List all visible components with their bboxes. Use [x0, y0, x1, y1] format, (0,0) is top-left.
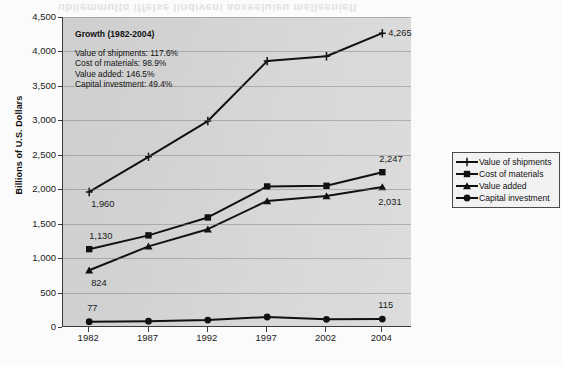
legend-item-label: Cost of materials: [479, 168, 543, 180]
series-circle: [86, 314, 386, 325]
series-triangle: [85, 183, 386, 273]
legend-item-label: Value added: [479, 180, 527, 192]
legend-item[interactable]: Cost of materials: [455, 168, 556, 180]
data-label-materials-2004: 2,247: [379, 154, 402, 164]
series-line: [89, 317, 382, 322]
y-axis-tick-mark: [58, 258, 62, 259]
data-label-value-added-2004: 2,031: [378, 197, 401, 207]
gridline: [63, 189, 411, 190]
x-axis-tick-mark: [148, 327, 149, 332]
series-square: [86, 169, 386, 252]
gridline: [63, 17, 411, 18]
data-point-cross-marker: [379, 29, 386, 37]
y-axis-tick-mark: [58, 155, 62, 156]
x-axis-tick-mark: [266, 327, 267, 332]
x-axis-tick-label: 2004: [351, 332, 411, 343]
y-axis-tick-mark: [58, 86, 62, 87]
data-point-circle-marker: [145, 318, 152, 325]
data-point-circle-marker: [204, 317, 211, 324]
data-label-value-added-1982: 824: [91, 278, 107, 288]
y-axis-tick-label: 500: [0, 287, 56, 298]
y-axis-tick-mark: [58, 224, 62, 225]
data-point-square-marker: [323, 183, 329, 189]
y-axis-tick-mark: [58, 293, 62, 294]
data-point-cross-marker: [323, 52, 330, 60]
legend-item[interactable]: Capital investment: [455, 192, 556, 204]
data-point-square-marker: [145, 232, 151, 238]
data-point-circle-marker: [323, 316, 330, 323]
data-label-shipments-2004: 4,265: [388, 28, 411, 38]
data-label-materials-1982: 1,130: [89, 231, 112, 241]
x-axis-tick-label: 1987: [118, 332, 178, 343]
triangle-marker: [455, 180, 479, 192]
y-axis-tick-label: 2,500: [0, 149, 56, 160]
data-label-capital-1982: 77: [87, 303, 97, 313]
legend-item[interactable]: Value of shipments: [455, 156, 556, 168]
x-axis-tick-label: 1992: [177, 332, 237, 343]
data-label-shipments-1982: 1,960: [91, 199, 114, 209]
data-point-circle-marker: [264, 314, 271, 321]
y-axis-tick-label: 3,000: [0, 114, 56, 125]
y-axis-tick-label: 1,500: [0, 218, 56, 229]
annotation-line-shipments: Value of shipments: 117.6%: [75, 48, 217, 59]
x-axis-tick-mark: [207, 327, 208, 332]
legend-item[interactable]: Value added: [455, 180, 556, 192]
cross-marker: [455, 156, 479, 168]
growth-annotation: Growth (1982-2004) Value of shipments: 1…: [75, 29, 217, 90]
circle-marker: [455, 192, 479, 204]
x-axis-tick-mark: [381, 327, 382, 332]
annotation-line-value-added: Value added: 146.5%: [75, 69, 217, 80]
chart-legend: Value of shipmentsCost of materialsValue…: [452, 152, 560, 208]
x-axis-tick-mark: [88, 327, 89, 332]
y-axis-tick-label: 1,000: [0, 252, 56, 263]
legend-item-label: Value of shipments: [479, 156, 551, 168]
square-marker: [455, 168, 479, 180]
y-axis-tick-label: 3,500: [0, 80, 56, 91]
x-axis-tick-label: 2002: [295, 332, 355, 343]
x-axis-tick-label: 1997: [236, 332, 296, 343]
data-point-circle-marker: [379, 316, 386, 323]
data-point-square-marker: [205, 214, 211, 220]
data-label-capital-2004: 115: [378, 300, 393, 310]
legend-item-label: Capital investment: [479, 192, 550, 204]
data-point-circle-marker: [86, 318, 93, 325]
y-axis-tick-mark: [58, 51, 62, 52]
data-point-square-marker: [379, 169, 385, 175]
series-line: [89, 172, 382, 249]
gridline: [63, 120, 411, 121]
gridline: [63, 224, 411, 225]
y-axis-tick-label: 4,500: [0, 11, 56, 22]
y-axis-tick-label: 0: [0, 321, 56, 332]
y-axis-tick-mark: [58, 17, 62, 18]
y-axis-tick-label: 2,000: [0, 183, 56, 194]
line-chart: Billions of U.S. Dollars 4,5004,0003,500…: [0, 0, 562, 365]
data-point-square-marker: [86, 246, 92, 252]
y-axis-tick-mark: [58, 189, 62, 190]
y-axis-tick-mark: [58, 120, 62, 121]
y-axis-tick-mark: [58, 327, 62, 328]
annotation-line-materials: Cost of materials: 98.9%: [75, 58, 217, 69]
annotation-title: Growth (1982-2004): [75, 29, 217, 40]
y-axis-tick-label: 4,000: [0, 45, 56, 56]
gridline: [63, 155, 411, 156]
x-axis-tick-label: 1982: [58, 332, 118, 343]
gridline: [63, 293, 411, 294]
x-axis-tick-mark: [325, 327, 326, 332]
annotation-line-capital: Capital investment: 49.4%: [75, 79, 217, 90]
gridline: [63, 258, 411, 259]
